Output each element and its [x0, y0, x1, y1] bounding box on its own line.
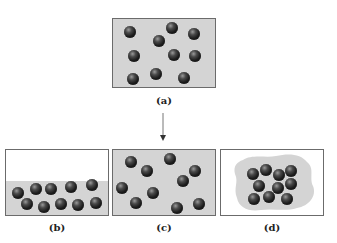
molecule: [263, 191, 275, 203]
molecule: [141, 165, 153, 177]
molecule: [116, 182, 128, 194]
molecule: [247, 168, 259, 180]
down-arrow-icon: [158, 113, 168, 143]
panel-d: [220, 149, 324, 216]
solid-region: [221, 150, 324, 216]
molecule: [171, 202, 183, 214]
molecule: [86, 179, 98, 191]
molecule: [55, 198, 67, 210]
molecule: [281, 193, 293, 205]
molecule: [12, 187, 24, 199]
molecule: [21, 198, 33, 210]
molecule: [164, 153, 176, 165]
molecule: [253, 180, 265, 192]
panel-b: [5, 149, 109, 216]
molecule: [125, 156, 137, 168]
panel-b-label: (b): [37, 222, 77, 233]
panel-c-label: (c): [144, 222, 184, 233]
molecule: [273, 169, 285, 181]
molecule: [260, 164, 272, 176]
molecule: [150, 68, 162, 80]
panel-a-label: (a): [144, 95, 184, 106]
molecule: [177, 175, 189, 187]
molecule: [147, 187, 159, 199]
molecule: [178, 72, 190, 84]
panel-d-label: (d): [252, 222, 292, 233]
molecule: [30, 183, 42, 195]
molecule: [130, 197, 142, 209]
molecule: [72, 199, 84, 211]
molecule: [128, 50, 140, 62]
molecule: [166, 22, 178, 34]
panel-c: [112, 149, 216, 216]
molecule: [127, 73, 139, 85]
molecule: [45, 183, 57, 195]
molecule: [193, 198, 205, 210]
molecule: [189, 50, 201, 62]
molecule: [189, 165, 201, 177]
molecule: [272, 182, 284, 194]
molecule: [153, 35, 165, 47]
molecule: [124, 26, 136, 38]
molecule: [65, 181, 77, 193]
molecule: [285, 165, 297, 177]
molecule: [248, 193, 260, 205]
molecule: [285, 178, 297, 190]
molecule: [90, 197, 102, 209]
molecule: [38, 201, 50, 213]
panel-a: [112, 18, 216, 88]
molecule: [168, 49, 180, 61]
molecule: [188, 28, 200, 40]
